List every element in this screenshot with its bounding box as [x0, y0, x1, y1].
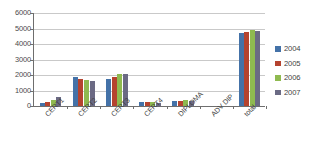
- bar: [112, 77, 117, 106]
- x-axis-tick-mark: [100, 106, 101, 109]
- bar: [239, 33, 244, 106]
- x-axis-tick-mark: [167, 106, 168, 109]
- legend-item[interactable]: 2005: [275, 60, 301, 68]
- legend-swatch-icon: [275, 90, 281, 96]
- bar: [78, 79, 83, 106]
- bar-group: [100, 13, 133, 106]
- x-axis-tick-mark: [233, 106, 234, 109]
- y-axis-tick-label: 2000: [15, 71, 31, 78]
- legend: 2004200520062007: [275, 45, 301, 97]
- y-axis-tick-label: 4000: [15, 40, 31, 47]
- bars-layer: [34, 13, 265, 106]
- legend-item[interactable]: 2007: [275, 89, 301, 97]
- y-axis-tick-label: 1000: [15, 87, 31, 94]
- bar: [172, 101, 177, 106]
- bar: [244, 32, 249, 106]
- x-axis-tick-mark: [67, 106, 68, 109]
- legend-item-label: 2007: [284, 89, 301, 97]
- y-axis-tick-label: 6000: [15, 9, 31, 16]
- bar: [106, 79, 111, 106]
- x-axis-tick-mark: [200, 106, 201, 109]
- bar-group: [233, 13, 266, 106]
- legend-item-label: 2005: [284, 60, 301, 68]
- legend-swatch-icon: [275, 46, 281, 52]
- legend-item-label: 2006: [284, 74, 301, 82]
- bar-group: [67, 13, 100, 106]
- bar: [40, 103, 45, 106]
- bar-group: [34, 13, 67, 106]
- legend-swatch-icon: [275, 75, 281, 81]
- y-axis-tick-label: 5000: [15, 25, 31, 32]
- legend-item[interactable]: 2006: [275, 74, 301, 82]
- legend-swatch-icon: [275, 61, 281, 67]
- legend-item[interactable]: 2004: [275, 45, 301, 53]
- legend-item-label: 2004: [284, 45, 301, 53]
- x-axis-tick-mark: [266, 106, 267, 109]
- bar-group: [133, 13, 166, 106]
- x-axis-tick-mark: [133, 106, 134, 109]
- y-axis-tick-label: 3000: [15, 56, 31, 63]
- bar: [139, 102, 144, 106]
- bar: [73, 77, 78, 106]
- bar: [250, 30, 255, 106]
- bar: [255, 31, 260, 106]
- bar-chart: 6000500040003000200010000 CERT1CERT2CERT…: [0, 0, 317, 146]
